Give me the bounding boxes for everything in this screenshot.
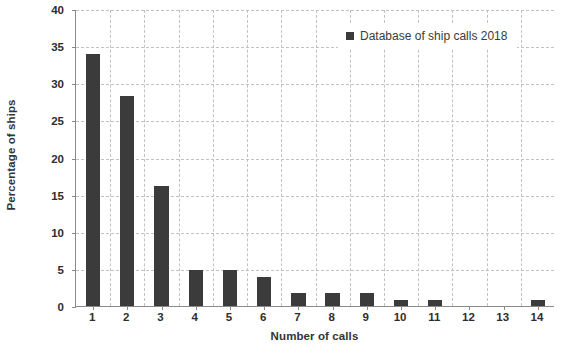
x-tick-label: 3 (157, 311, 163, 323)
x-tick-mark (127, 306, 128, 310)
x-tick-mark (230, 306, 231, 310)
x-tick-mark (504, 306, 505, 310)
y-tick-mark (72, 270, 76, 271)
x-axis-tick-labels: 1234567891011121314 (75, 311, 554, 329)
bars-layer (76, 10, 554, 306)
y-tick-mark (72, 159, 76, 160)
y-tick-label: 20 (51, 153, 64, 165)
y-axis-tick-labels: 0510152025303540 (26, 10, 70, 307)
x-tick-label: 4 (192, 311, 198, 323)
x-tick-mark (196, 306, 197, 310)
x-tick-label: 7 (294, 311, 300, 323)
x-tick-mark (264, 306, 265, 310)
x-tick-mark (333, 306, 334, 310)
bar (291, 293, 305, 306)
x-tick-mark (435, 306, 436, 310)
bar (189, 270, 203, 306)
y-axis-title-text: Percentage of ships (5, 99, 17, 210)
y-tick-label: 25 (51, 115, 64, 127)
y-tick-mark (72, 233, 76, 234)
x-tick-label: 11 (428, 311, 440, 323)
y-tick-label: 10 (51, 227, 64, 239)
bar-chart: Percentage of ships 0510152025303540 123… (0, 0, 568, 355)
y-tick-mark (72, 307, 76, 308)
bar (120, 96, 134, 306)
x-tick-label: 5 (226, 311, 232, 323)
legend-label: Database of ship calls 2018 (360, 29, 507, 43)
y-tick-label: 35 (51, 41, 64, 53)
x-tick-mark (367, 306, 368, 310)
bar (223, 270, 237, 306)
x-tick-label: 13 (496, 311, 509, 323)
y-tick-mark (72, 84, 76, 85)
plot-area (75, 10, 554, 307)
bar (257, 277, 271, 306)
legend-swatch-icon (346, 32, 354, 40)
x-tick-mark (298, 306, 299, 310)
x-tick-label: 12 (462, 311, 475, 323)
x-tick-mark (538, 306, 539, 310)
y-tick-label: 40 (51, 4, 64, 16)
chart-legend: Database of ship calls 2018 (338, 24, 517, 48)
y-tick-label: 30 (51, 78, 64, 90)
y-tick-label: 0 (58, 301, 64, 313)
y-tick-label: 5 (58, 264, 64, 276)
x-tick-label: 2 (123, 311, 129, 323)
y-tick-mark (72, 10, 76, 11)
x-tick-label: 9 (363, 311, 369, 323)
bar (86, 54, 100, 306)
x-axis-title: Number of calls (75, 330, 554, 342)
bar (325, 293, 339, 306)
x-tick-label: 14 (530, 311, 543, 323)
x-tick-mark (469, 306, 470, 310)
x-tick-mark (162, 306, 163, 310)
y-axis-title: Percentage of ships (0, 0, 22, 310)
x-tick-label: 6 (260, 311, 266, 323)
bar (154, 186, 168, 306)
x-tick-mark (93, 306, 94, 310)
y-tick-mark (72, 121, 76, 122)
y-tick-mark (72, 196, 76, 197)
y-tick-mark (72, 47, 76, 48)
x-tick-label: 8 (328, 311, 334, 323)
x-tick-label: 1 (89, 311, 95, 323)
y-tick-label: 15 (51, 190, 64, 202)
bar (360, 293, 374, 306)
x-tick-mark (401, 306, 402, 310)
x-tick-label: 10 (394, 311, 407, 323)
